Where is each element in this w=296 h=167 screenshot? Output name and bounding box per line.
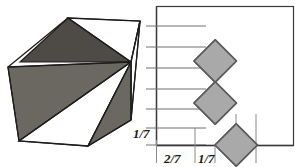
chain-square-2: [215, 124, 257, 166]
label-y-axis: 1/7: [133, 126, 150, 141]
square-chain: [194, 40, 257, 166]
shaded-cube: [8, 18, 140, 146]
figure-container: 1/7 2/7 1/7: [0, 0, 296, 167]
grid-horizontal-lines: [146, 26, 206, 145]
chain-square-4: [194, 82, 236, 124]
figure-canvas: 1/7 2/7 1/7: [0, 0, 296, 167]
label-x-second: 1/7: [198, 151, 215, 166]
chain-square-6: [194, 40, 236, 82]
label-x-first: 2/7: [163, 151, 181, 166]
grid-panel: [146, 7, 294, 167]
grid-frame: [157, 7, 294, 146]
